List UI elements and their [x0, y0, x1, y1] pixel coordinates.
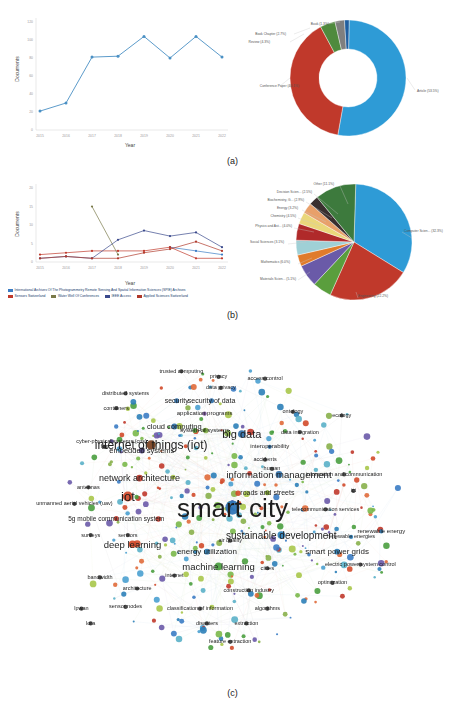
- network-node[interactable]: [113, 597, 115, 599]
- network-node[interactable]: [170, 538, 176, 544]
- network-term-label[interactable]: human: [264, 465, 281, 471]
- network-term-label[interactable]: ecology: [332, 412, 351, 418]
- network-term-label[interactable]: architecture: [123, 585, 152, 591]
- network-node[interactable]: [204, 456, 208, 460]
- network-node[interactable]: [316, 563, 318, 565]
- network-node[interactable]: [171, 551, 177, 557]
- network-node[interactable]: [324, 498, 330, 504]
- network-node[interactable]: [314, 601, 317, 604]
- network-node[interactable]: [142, 491, 147, 496]
- network-node[interactable]: [301, 437, 303, 439]
- network-term-label[interactable]: access control: [247, 375, 282, 381]
- network-node[interactable]: [170, 496, 173, 499]
- network-node[interactable]: [295, 593, 300, 598]
- network-node[interactable]: [208, 645, 213, 650]
- network-node[interactable]: [337, 479, 340, 482]
- network-node[interactable]: [293, 553, 296, 556]
- network-node[interactable]: [260, 525, 264, 529]
- network-node[interactable]: [356, 541, 361, 546]
- network-node[interactable]: [148, 457, 151, 460]
- network-node[interactable]: [206, 485, 210, 489]
- network-term-label[interactable]: cities: [261, 565, 275, 571]
- network-node[interactable]: [143, 413, 149, 419]
- network-node[interactable]: [376, 451, 379, 454]
- network-node[interactable]: [113, 582, 117, 586]
- network-term-label[interactable]: 5g mobile communication system: [68, 515, 164, 522]
- network-term-label[interactable]: security: [165, 397, 189, 404]
- network-node[interactable]: [321, 422, 326, 427]
- network-node[interactable]: [336, 457, 343, 464]
- network-node[interactable]: [204, 474, 210, 480]
- network-term-label[interactable]: lora: [86, 620, 95, 626]
- network-node[interactable]: [110, 460, 113, 463]
- network-node[interactable]: [122, 576, 129, 583]
- network-node[interactable]: [334, 489, 340, 495]
- network-node[interactable]: [301, 598, 307, 604]
- network-node[interactable]: [162, 536, 168, 542]
- network-term-label[interactable]: construction industry: [224, 587, 274, 593]
- network-node[interactable]: [266, 555, 272, 561]
- network-term-label[interactable]: iot: [121, 489, 135, 504]
- network-node[interactable]: [279, 421, 283, 425]
- network-term-label[interactable]: security of data: [188, 397, 235, 404]
- network-node[interactable]: [277, 523, 283, 529]
- network-node[interactable]: [335, 571, 337, 573]
- network-term-label[interactable]: sensor nodes: [109, 603, 142, 609]
- network-node[interactable]: [139, 559, 144, 564]
- network-term-label[interactable]: classification of information: [167, 605, 233, 611]
- network-term-label[interactable]: roads and streets: [240, 489, 294, 496]
- network-node[interactable]: [238, 455, 243, 460]
- network-node[interactable]: [157, 486, 159, 488]
- network-node[interactable]: [122, 505, 127, 510]
- network-term-label[interactable]: disasters: [196, 620, 218, 626]
- network-node[interactable]: [152, 435, 154, 437]
- network-node[interactable]: [361, 483, 367, 489]
- network-node[interactable]: [154, 597, 160, 603]
- network-term-label[interactable]: system of systems: [180, 427, 229, 433]
- network-node[interactable]: [324, 461, 330, 467]
- network-node[interactable]: [158, 555, 162, 559]
- network-node[interactable]: [289, 545, 296, 552]
- network-node[interactable]: [159, 625, 165, 631]
- legend-item[interactable]: IEEE Access: [105, 294, 131, 298]
- network-node[interactable]: [175, 527, 177, 529]
- network-node[interactable]: [189, 529, 194, 534]
- network-node[interactable]: [85, 522, 90, 527]
- network-term-label[interactable]: cyber-physical systems (cps): [76, 438, 147, 444]
- network-node[interactable]: [296, 572, 302, 578]
- network-node[interactable]: [371, 456, 376, 461]
- network-node[interactable]: [137, 570, 143, 576]
- network-term-label[interactable]: unmanned aerial vehicles (uav): [36, 500, 112, 506]
- network-node[interactable]: [133, 621, 135, 623]
- network-node[interactable]: [136, 456, 140, 460]
- network-node[interactable]: [263, 483, 266, 486]
- network-node[interactable]: [191, 384, 197, 390]
- network-node[interactable]: [186, 480, 191, 485]
- network-node[interactable]: [266, 395, 269, 398]
- network-node[interactable]: [252, 637, 257, 642]
- network-term-label[interactable]: data integration: [281, 429, 319, 435]
- network-term-label[interactable]: machine learning: [182, 561, 254, 572]
- legend-item[interactable]: International Archives Of The Photogramm…: [8, 288, 186, 292]
- network-node[interactable]: [225, 632, 231, 638]
- network-term-label[interactable]: telecommunication services: [292, 506, 360, 512]
- network-node[interactable]: [212, 379, 215, 382]
- network-node[interactable]: [130, 399, 136, 405]
- network-term-label[interactable]: air quality: [218, 537, 242, 543]
- network-node[interactable]: [137, 414, 143, 420]
- network-node[interactable]: [354, 477, 359, 482]
- network-node[interactable]: [301, 481, 304, 484]
- network-node[interactable]: [276, 633, 278, 635]
- network-node[interactable]: [186, 456, 190, 460]
- network-node[interactable]: [158, 433, 160, 435]
- network-node[interactable]: [377, 567, 381, 571]
- network-node[interactable]: [250, 575, 254, 579]
- network-term-label[interactable]: distributed systems: [102, 390, 149, 396]
- network-node[interactable]: [348, 464, 350, 466]
- network-node[interactable]: [367, 508, 373, 514]
- network-node[interactable]: [299, 550, 302, 553]
- network-node[interactable]: [201, 588, 206, 593]
- legend-item[interactable]: Applied Sciences Switzerland: [137, 294, 188, 298]
- network-node[interactable]: [199, 378, 203, 382]
- network-node[interactable]: [179, 619, 184, 624]
